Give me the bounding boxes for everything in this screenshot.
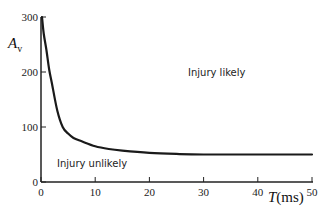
region-label-injury-likely: Injury likely	[188, 67, 246, 78]
x-tick-label: 30	[198, 186, 210, 198]
x-tick-label: 50	[307, 186, 319, 198]
y-tick-label: 100	[22, 121, 39, 133]
threshold-curve	[42, 17, 312, 155]
y-ticks: 0100200300	[22, 11, 47, 188]
y-tick-label: 0	[33, 176, 39, 188]
y-tick-label: 300	[22, 11, 39, 23]
x-tick-label: 10	[90, 186, 102, 198]
x-tick-label: 0	[38, 186, 44, 198]
x-tick-label: 20	[144, 186, 156, 198]
region-label-injury-unlikely: Injury unlikely	[57, 158, 127, 169]
threshold-chart: 01020304050 0100200300 Av T(ms) Injury l…	[0, 0, 333, 215]
x-axis-title: T(ms)	[268, 189, 304, 206]
x-tick-label: 40	[252, 186, 264, 198]
y-axis-title: Av	[7, 35, 22, 54]
y-tick-label: 200	[22, 66, 39, 78]
